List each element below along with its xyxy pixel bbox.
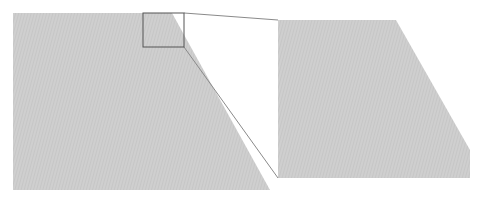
source-region xyxy=(13,13,270,190)
magnified-region xyxy=(278,20,470,178)
zoom-diagram xyxy=(0,0,482,197)
connector-line-top xyxy=(184,13,278,20)
